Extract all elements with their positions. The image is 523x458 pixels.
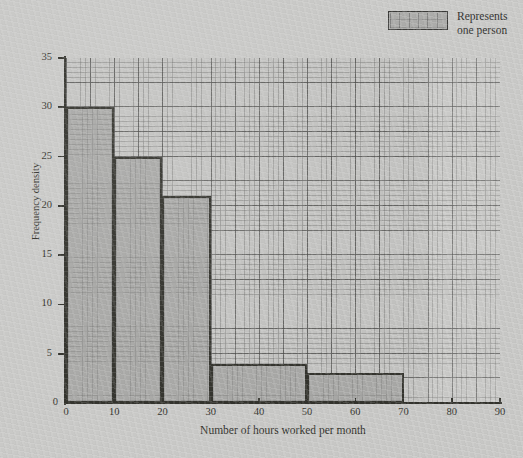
grid-unshaded-margin	[428, 58, 500, 403]
legend-label-line2: one person	[457, 24, 507, 38]
y-axis-tick	[58, 57, 65, 59]
y-axis-tick	[58, 106, 65, 108]
x-axis-tick	[499, 398, 501, 404]
y-axis-tick	[58, 205, 65, 207]
histogram-chart: Represents one person 5101520253035 0102…	[0, 0, 523, 458]
x-axis-tick	[210, 398, 212, 404]
y-axis-tick	[58, 254, 65, 256]
x-axis-tick-label: 80	[435, 406, 469, 417]
y-axis-tick-label: 35	[18, 51, 52, 62]
y-axis-tick-label: 10	[18, 297, 52, 308]
x-axis-tick-label: 60	[338, 406, 372, 417]
x-axis-tick	[451, 398, 453, 404]
bar-grid-fill	[213, 366, 305, 401]
x-axis-tick-label: 90	[483, 406, 517, 417]
y-axis-origin-label: 0	[44, 396, 58, 407]
x-axis-tick-label: 30	[194, 406, 228, 417]
x-axis-tick-label: 50	[290, 406, 324, 417]
bar-grid-fill	[68, 109, 112, 401]
y-axis-title: Frequency density	[30, 142, 41, 262]
x-axis-line	[64, 402, 502, 404]
x-axis-tick	[258, 398, 260, 404]
swatch-grid-fill	[390, 13, 446, 28]
x-axis-tick	[403, 398, 405, 404]
x-axis-tick-label: 20	[145, 406, 179, 417]
one-person-swatch-icon	[388, 11, 448, 30]
x-axis-tick	[306, 398, 308, 404]
x-axis-tick	[162, 398, 164, 404]
x-axis-tick-label: 40	[242, 406, 276, 417]
bar-grid-fill	[164, 198, 208, 401]
legend-label: Represents one person	[457, 10, 507, 37]
plot-area	[66, 58, 500, 403]
x-axis-tick-label: 10	[97, 406, 131, 417]
y-axis-tick	[58, 353, 65, 355]
x-axis-tick-label: 0	[49, 406, 83, 417]
y-axis-tick	[58, 304, 65, 306]
y-axis-tick-label: 30	[18, 100, 52, 111]
histogram-bar	[114, 157, 162, 403]
histogram-bar	[66, 107, 114, 403]
x-axis-tick	[355, 398, 357, 404]
chart-legend: Represents one person	[388, 10, 507, 37]
x-axis-tick-label: 70	[387, 406, 421, 417]
y-axis-tick	[58, 156, 65, 158]
y-axis-tick-label: 5	[18, 347, 52, 358]
legend-label-line1: Represents	[457, 10, 507, 24]
x-axis-tick	[113, 398, 115, 404]
bar-grid-fill	[116, 159, 160, 401]
x-axis-title: Number of hours worked per month	[66, 424, 500, 436]
histogram-bar	[162, 196, 210, 403]
